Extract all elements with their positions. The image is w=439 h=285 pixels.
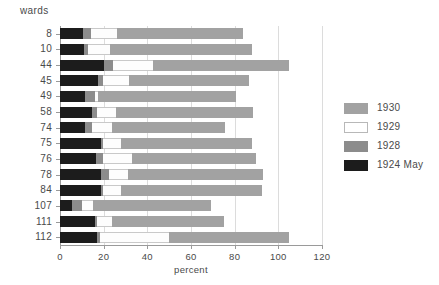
bar-segment-1928 [85, 91, 95, 102]
bar-row [60, 122, 322, 133]
bar-row [60, 44, 322, 55]
bar-segment-1924-may [60, 200, 72, 211]
x-tick-label: 100 [258, 251, 298, 262]
bar-segment-1929 [97, 216, 112, 227]
legend-label: 1930 [377, 102, 400, 113]
bar-segment-1929 [113, 60, 152, 71]
bar-segment-1924-may [60, 169, 101, 180]
bar-segment-1929 [100, 232, 169, 243]
bar-row [60, 185, 322, 196]
legend-swatch [344, 141, 368, 152]
y-tick-label: 45 [6, 75, 52, 86]
bar-segment-1930 [169, 232, 289, 243]
x-tick-label: 40 [127, 251, 167, 262]
bar-segment-1924-may [60, 28, 83, 39]
bar-row [60, 107, 322, 118]
x-tick-mark [147, 245, 148, 249]
x-tick-mark [322, 245, 323, 249]
legend-label: 1929 [377, 121, 400, 132]
bar-segment-1930 [121, 138, 252, 149]
bar-row [60, 28, 322, 39]
bar-segment-1929 [109, 169, 128, 180]
x-tick-label: 120 [302, 251, 342, 262]
bar-segment-1928 [104, 60, 114, 71]
x-tick-mark [191, 245, 192, 249]
legend-swatch [344, 103, 368, 114]
bar-segment-1924-may [60, 232, 97, 243]
bar-segment-1929 [103, 153, 132, 164]
bar-segment-1929 [91, 28, 117, 39]
y-tick-label: 44 [6, 59, 52, 70]
bar-segment-1930 [98, 91, 236, 102]
bar-segment-1924-may [60, 138, 101, 149]
bar-segment-1924-may [60, 107, 92, 118]
bar-segment-1930 [110, 44, 252, 55]
y-tick-label: 58 [6, 106, 52, 117]
bar-segment-1928 [101, 169, 109, 180]
bar-segment-1928 [85, 122, 92, 133]
bar-segment-1930 [129, 75, 249, 86]
bar-segment-1924-may [60, 122, 85, 133]
bar-chart: wards 020406080100120 810444549587475767… [0, 0, 439, 285]
bar-segment-1929 [92, 122, 113, 133]
bar-segment-1924-may [60, 60, 104, 71]
bar-segment-1930 [132, 153, 256, 164]
bar-segment-1930 [128, 169, 263, 180]
bar-segment-1929 [88, 44, 110, 55]
legend: 1930192919281924 May [344, 100, 436, 176]
bar-row [60, 232, 322, 243]
bar-segment-1930 [116, 107, 254, 118]
y-tick-label: 76 [6, 153, 52, 164]
legend-swatch [344, 160, 368, 171]
x-tick-mark [235, 245, 236, 249]
x-tick-label: 0 [40, 251, 80, 262]
x-tick-mark [278, 245, 279, 249]
bar-segment-1924-may [60, 75, 98, 86]
bar-segment-1924-may [60, 44, 84, 55]
bar-row [60, 75, 322, 86]
bar-segment-1924-may [60, 91, 85, 102]
x-tick-mark [104, 245, 105, 249]
bar-segment-1924-may [60, 153, 96, 164]
bar-segment-1928 [72, 200, 82, 211]
y-tick-label: 111 [6, 216, 52, 227]
bar-row [60, 138, 322, 149]
bar-segment-1929 [103, 138, 122, 149]
bar-segment-1930 [112, 122, 224, 133]
x-tick-label: 60 [171, 251, 211, 262]
bar-segment-1930 [93, 200, 211, 211]
y-tick-label: 10 [6, 43, 52, 54]
y-axis-title: wards [20, 5, 49, 16]
x-tick-label: 80 [215, 251, 255, 262]
bar-segment-1924-may [60, 216, 95, 227]
legend-label: 1928 [377, 140, 400, 151]
y-tick-label: 49 [6, 90, 52, 101]
y-tick-label: 78 [6, 169, 52, 180]
legend-item: 1924 May [344, 157, 436, 176]
legend-item: 1930 [344, 100, 436, 119]
bar-row [60, 91, 322, 102]
x-axis-title: percent [60, 264, 322, 275]
legend-item: 1928 [344, 138, 436, 157]
bar-segment-1929 [82, 200, 93, 211]
legend-item: 1929 [344, 119, 436, 138]
bar-segment-1930 [112, 216, 223, 227]
bar-row [60, 153, 322, 164]
y-tick-label: 75 [6, 137, 52, 148]
bar-segment-1929 [97, 107, 116, 118]
bar-segment-1929 [103, 75, 129, 86]
bar-segment-1930 [117, 28, 244, 39]
y-tick-label: 84 [6, 184, 52, 195]
bar-segment-1929 [103, 185, 122, 196]
bar-segment-1930 [153, 60, 289, 71]
y-tick-label: 112 [6, 231, 52, 242]
legend-swatch [344, 122, 368, 133]
y-tick-label: 8 [6, 28, 52, 39]
bar-segment-1930 [121, 185, 262, 196]
bar-segment-1928 [83, 28, 91, 39]
x-tick-mark [60, 245, 61, 249]
y-tick-label: 74 [6, 122, 52, 133]
bar-row [60, 60, 322, 71]
bar-row [60, 200, 322, 211]
legend-label: 1924 May [377, 159, 423, 170]
